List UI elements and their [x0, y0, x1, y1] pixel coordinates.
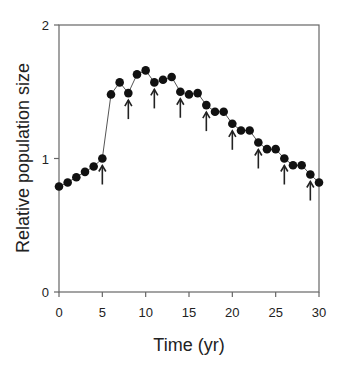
x-axis-title: Time (yr): [153, 335, 224, 355]
data-point: [133, 70, 142, 79]
data-point: [315, 178, 324, 187]
data-point: [167, 73, 176, 82]
x-tick-label: 25: [268, 305, 282, 320]
up-arrow-icon: [99, 166, 106, 185]
y-tick-label: 0: [42, 285, 49, 300]
data-point: [219, 107, 228, 116]
data-point: [63, 178, 72, 187]
y-tick-label: 2: [42, 18, 49, 33]
data-point: [141, 66, 150, 75]
up-arrow-icon: [307, 182, 314, 201]
data-point: [98, 154, 107, 163]
x-tick-label: 15: [182, 305, 196, 320]
data-point: [245, 126, 254, 135]
data-point: [289, 161, 298, 170]
data-point: [211, 107, 220, 116]
up-arrow-icon: [125, 100, 132, 119]
data-point: [185, 90, 194, 99]
data-point: [150, 78, 159, 87]
up-arrow-icon: [177, 99, 184, 118]
up-arrow-icon: [255, 149, 262, 168]
x-tick-label: 0: [55, 305, 62, 320]
data-point: [271, 145, 280, 154]
data-point: [81, 168, 90, 177]
x-tick-label: 5: [99, 305, 106, 320]
data-point: [263, 145, 272, 154]
x-tick-label: 30: [312, 305, 326, 320]
data-point: [237, 126, 246, 135]
y-axis: 012: [42, 18, 59, 300]
x-axis: 051015202530: [55, 292, 326, 320]
up-arrow-icon: [151, 89, 158, 108]
data-point: [72, 173, 81, 182]
chart: 012 051015202530 Time (yr) Relative popu…: [0, 0, 340, 368]
data-line: [59, 70, 319, 186]
data-point: [193, 89, 202, 98]
x-tick-label: 10: [138, 305, 152, 320]
data-point: [159, 75, 168, 84]
data-point: [55, 182, 64, 191]
y-axis-title: Relative population size: [13, 63, 33, 253]
data-point: [280, 154, 289, 163]
data-point: [254, 138, 263, 147]
series-line: [59, 70, 319, 186]
x-tick-label: 20: [225, 305, 239, 320]
data-points: [55, 66, 324, 191]
data-point: [306, 170, 315, 179]
up-arrow-icon: [203, 112, 210, 131]
up-arrow-icon: [229, 131, 236, 150]
plot-frame: [59, 25, 319, 292]
data-point: [228, 119, 237, 128]
data-point: [115, 78, 124, 87]
data-point: [89, 162, 98, 171]
data-point: [297, 161, 306, 170]
data-point: [176, 87, 185, 96]
data-point: [107, 90, 116, 99]
data-point: [124, 89, 133, 98]
up-arrow-icon: [281, 166, 288, 185]
plot-border: [59, 25, 319, 292]
y-tick-label: 1: [42, 152, 49, 167]
data-point: [202, 101, 211, 110]
